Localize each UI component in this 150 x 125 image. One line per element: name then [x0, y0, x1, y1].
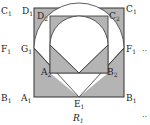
geometry-figure: C1 D1 D2 C2 C1 F1 G1 F1 ·· A2 B2 B1 A1 E…: [0, 0, 150, 125]
label-g1: G1: [21, 44, 32, 55]
ellipsis-lower: ··: [142, 113, 147, 122]
label-f1-right: F1: [126, 44, 136, 55]
label-e1: E1: [74, 99, 84, 110]
label-c1-right: C1: [126, 4, 137, 15]
label-d1: D1: [22, 6, 33, 17]
label-c1-left: C1: [1, 6, 12, 17]
label-f1-left: F1: [1, 44, 11, 55]
label-a1: A1: [20, 93, 31, 104]
label-b1-left: B1: [1, 93, 11, 104]
figure-caption: R1: [72, 113, 84, 124]
ellipsis-upper: ··: [142, 47, 147, 56]
label-b1-right: B1: [126, 93, 136, 104]
